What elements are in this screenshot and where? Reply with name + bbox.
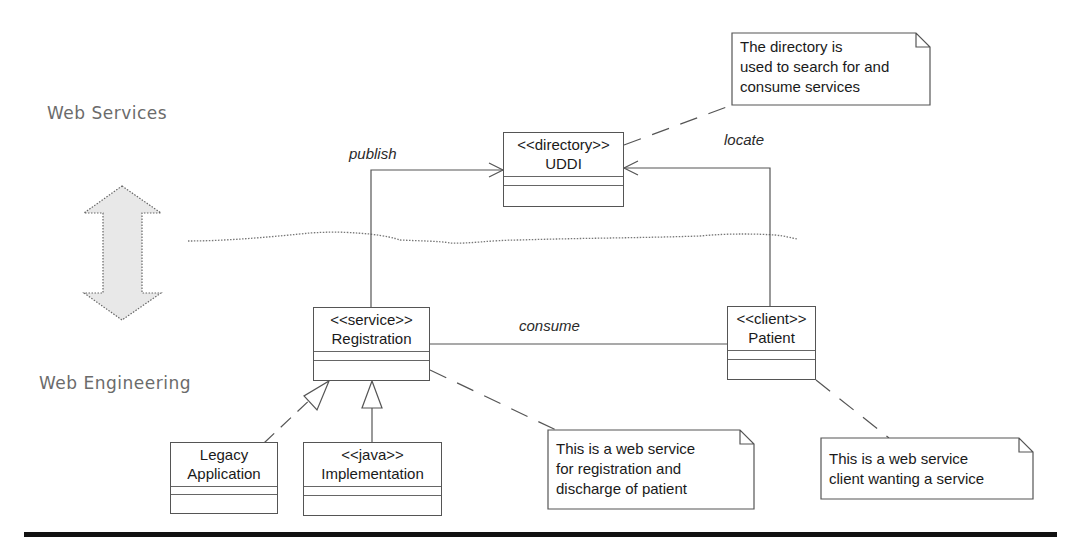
registration-attributes-compartment	[314, 351, 429, 360]
locate-label: locate	[724, 131, 764, 148]
uddi-name: UDDI	[506, 154, 621, 173]
implementation-name: Implementation	[306, 464, 439, 483]
legacy-operations-compartment	[171, 494, 277, 495]
uddi-class[interactable]: <<directory>> UDDI	[503, 132, 624, 207]
publish-label: publish	[349, 145, 397, 162]
implementation-class[interactable]: <<java>> Implementation	[303, 442, 442, 516]
publish-edge	[371, 170, 503, 307]
implementation-operations-compartment	[304, 495, 441, 496]
registration-stereotype: <<service>>	[316, 310, 427, 329]
web-engineering-layer-label: Web Engineering	[39, 373, 191, 393]
patient-class[interactable]: <<client>> Patient	[727, 306, 816, 380]
directory-note: The directory is used to search for and …	[732, 34, 930, 105]
uddi-operations-compartment	[504, 185, 623, 186]
client-note: This is a web service client wanting a s…	[821, 446, 1033, 499]
implementation-stereotype: <<java>>	[306, 445, 439, 464]
consume-label: consume	[519, 317, 580, 334]
legacy-name-line2: Application	[173, 464, 275, 483]
registration-operations-compartment	[314, 360, 429, 361]
layer-boundary-line	[188, 232, 797, 243]
patient-name: Patient	[730, 328, 813, 347]
client-note-anchor	[816, 380, 889, 438]
service-note: This is a web service for registration a…	[548, 436, 754, 509]
patient-operations-compartment	[728, 359, 815, 360]
realization-edge	[264, 395, 315, 443]
patient-attributes-compartment	[728, 350, 815, 359]
legacy-application-class[interactable]: Legacy Application	[170, 442, 278, 514]
uddi-stereotype: <<directory>>	[506, 135, 621, 154]
legacy-name-line1: Legacy	[173, 445, 275, 464]
footer-divider	[24, 532, 1057, 537]
double-arrow-icon	[84, 186, 161, 320]
web-services-layer-label: Web Services	[47, 103, 167, 123]
registration-class[interactable]: <<service>> Registration	[313, 307, 430, 381]
realization-triangle-icon	[304, 381, 329, 410]
service-note-anchor	[430, 370, 556, 430]
uddi-attributes-compartment	[504, 176, 623, 185]
generalization-triangle-icon	[362, 381, 382, 408]
patient-stereotype: <<client>>	[730, 309, 813, 328]
directory-note-anchor	[624, 105, 732, 145]
implementation-attributes-compartment	[304, 486, 441, 495]
legacy-attributes-compartment	[171, 486, 277, 494]
registration-name: Registration	[316, 329, 427, 348]
